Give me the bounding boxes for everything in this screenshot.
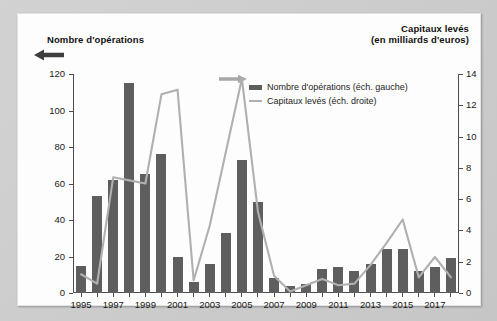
right-tick-mark [459,293,463,294]
left-tick-label: 20 [39,252,65,262]
right-tick-label: 12 [466,100,492,110]
left-tick-mark [69,293,73,294]
x-tick-mark [274,293,275,297]
x-tick-label: 2009 [289,300,323,310]
right-tick-label: 6 [466,194,492,204]
image-frame: Nombre d'opérations Capitaux levés (en m… [0,0,497,321]
line-series [73,74,459,293]
right-tick-mark [459,262,463,263]
x-tick-mark [450,293,451,297]
right-tick-label: 10 [466,132,492,142]
x-tick-label: 2005 [225,300,259,310]
x-tick-mark [402,293,403,297]
x-tick-label: 1999 [128,300,162,310]
x-tick-mark [145,293,146,297]
plot-area: 020406080100120 02468101214 199519971999… [73,74,459,293]
right-tick-label: 0 [466,288,492,298]
right-axis-title-line2: (en milliards d'euros) [371,34,469,45]
x-tick-label: 2007 [257,300,291,310]
x-tick-label: 2017 [418,300,452,310]
x-tick-mark [97,293,98,297]
x-tick-mark [161,293,162,297]
right-axis-title-line1: Capitaux levés [371,23,469,34]
x-tick-mark [209,293,210,297]
x-tick-mark [193,293,194,297]
left-axis-title: Nombre d'opérations [47,34,144,45]
left-axis-arrow-icon [32,47,66,63]
x-tick-mark [241,293,242,297]
right-axis-title: Capitaux levés (en milliards d'euros) [371,23,469,45]
right-tick-label: 4 [466,225,492,235]
right-tick-mark [459,168,463,169]
x-tick-mark [434,293,435,297]
right-tick-label: 2 [466,257,492,267]
x-tick-label: 2013 [354,300,388,310]
right-tick-label: 8 [466,163,492,173]
x-tick-mark [386,293,387,297]
x-tick-mark [354,293,355,297]
x-tick-label: 2003 [193,300,227,310]
x-tick-mark [322,293,323,297]
x-tick-mark [290,293,291,297]
left-tick-label: 120 [39,69,65,79]
left-tick-label: 60 [39,179,65,189]
x-tick-mark [177,293,178,297]
right-tick-mark [459,230,463,231]
x-tick-mark [129,293,130,297]
x-tick-label: 2011 [321,300,355,310]
right-tick-mark [459,105,463,106]
x-tick-label: 2015 [386,300,420,310]
x-tick-mark [113,293,114,297]
x-tick-mark [257,293,258,297]
x-tick-mark [338,293,339,297]
x-tick-mark [81,293,82,297]
x-tick-mark [306,293,307,297]
left-tick-label: 100 [39,106,65,116]
left-tick-label: 0 [39,288,65,298]
x-tick-label: 1997 [96,300,130,310]
left-tick-label: 80 [39,142,65,152]
right-tick-mark [459,199,463,200]
x-tick-label: 1995 [64,300,98,310]
right-tick-label: 14 [466,69,492,79]
x-tick-label: 2001 [161,300,195,310]
left-tick-label: 40 [39,215,65,225]
chart-panel: Nombre d'opérations Capitaux levés (en m… [17,13,481,306]
x-tick-mark [418,293,419,297]
right-tick-mark [459,137,463,138]
right-tick-mark [459,74,463,75]
x-tick-mark [225,293,226,297]
x-tick-mark [370,293,371,297]
